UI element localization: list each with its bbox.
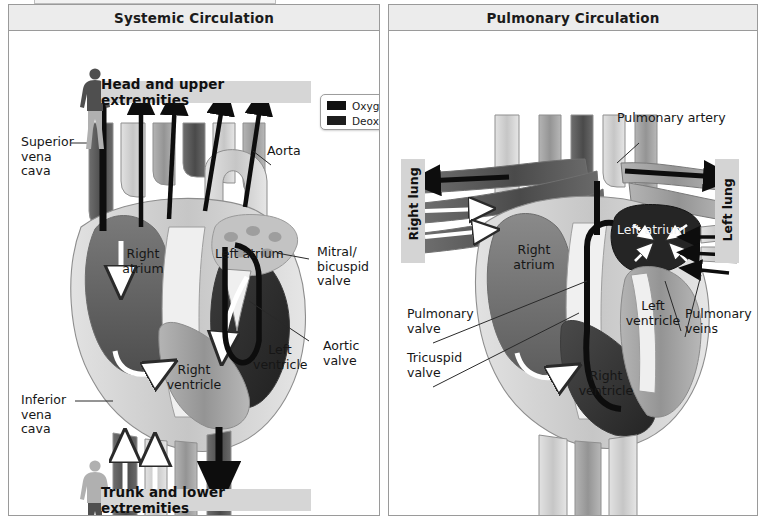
panel-pulmonary-circulation: Pulmonary Circulation xyxy=(388,4,758,516)
pulmonary-heart-illustration xyxy=(389,31,757,515)
legend-swatch-oxygenated xyxy=(327,101,346,110)
label-pulmonary-artery: Pulmonary artery xyxy=(617,111,726,126)
legend-label-oxygenated: Oxygenated blood xyxy=(352,100,379,112)
legend-item-deoxygenated: Deoxygenated blood xyxy=(327,113,379,128)
label-tricuspid-valve: Tricuspid valve xyxy=(407,351,479,380)
label-left-atrium: Left atrium xyxy=(215,247,284,262)
label-right-ventricle: Right ventricle xyxy=(161,363,227,392)
label-pulmonary-veins: Pulmonary veins xyxy=(685,307,757,336)
panel-pulmonary-body: Right lung Left lung Pulmonary artery Pu… xyxy=(389,31,757,515)
label-aorta: Aorta xyxy=(267,144,301,159)
banner-head-and-upper-extremities: Head and upper extremities xyxy=(101,81,311,103)
panel-systemic-body: Oxygenated blood Deoxygenated blood Head… xyxy=(9,31,379,515)
panel-systemic-circulation: Systemic Circulation xyxy=(8,4,380,516)
label-left-ventricle: Left ventricle xyxy=(625,299,681,328)
label-left-lung: Left lung xyxy=(720,184,735,242)
label-superior-vena-cava: Superior vena cava xyxy=(21,135,81,179)
legend-swatch-deoxygenated xyxy=(327,116,346,125)
legend-item-oxygenated: Oxygenated blood xyxy=(327,98,379,113)
blood-type-legend: Oxygenated blood Deoxygenated blood xyxy=(320,94,379,130)
label-left-ventricle: Left ventricle xyxy=(253,343,307,372)
panel-pulmonary-title: Pulmonary Circulation xyxy=(389,5,757,31)
label-inferior-vena-cava: Inferior vena cava xyxy=(21,393,81,437)
label-right-atrium: Right atrium xyxy=(507,243,561,272)
label-pulmonary-valve: Pulmonary valve xyxy=(407,307,479,336)
label-right-ventricle: Right ventricle xyxy=(573,369,639,398)
legend-label-deoxygenated: Deoxygenated blood xyxy=(352,115,379,127)
label-aortic-valve: Aortic valve xyxy=(323,339,379,368)
label-mitral-bicuspid-valve: Mitral/ bicuspid valve xyxy=(317,245,379,289)
label-left-atrium: Left atrium xyxy=(617,223,686,238)
label-right-lung: Right lung xyxy=(406,181,421,241)
panel-systemic-title: Systemic Circulation xyxy=(9,5,379,31)
label-right-atrium: Right atrium xyxy=(117,247,169,276)
banner-trunk-and-lower-extremities: Trunk and lower extremities xyxy=(101,489,311,511)
